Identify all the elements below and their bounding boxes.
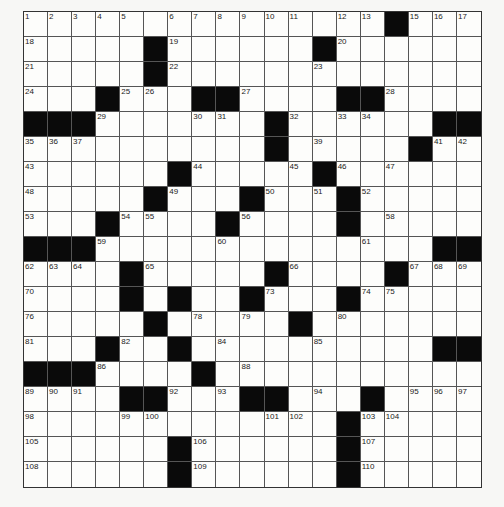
grid-cell[interactable] (289, 237, 313, 262)
grid-cell[interactable] (337, 362, 361, 387)
grid-cell[interactable] (433, 362, 457, 387)
grid-cell[interactable] (96, 187, 120, 212)
grid-cell[interactable]: 81 (24, 337, 48, 362)
grid-cell[interactable]: 89 (24, 387, 48, 412)
grid-cell[interactable]: 106 (192, 437, 216, 462)
grid-cell[interactable] (192, 412, 216, 437)
grid-cell[interactable] (289, 387, 313, 412)
grid-cell[interactable] (409, 337, 433, 362)
grid-cell[interactable]: 56 (240, 212, 264, 237)
grid-cell[interactable] (385, 387, 409, 412)
grid-cell[interactable] (337, 137, 361, 162)
grid-cell[interactable] (313, 262, 337, 287)
grid-cell[interactable] (96, 387, 120, 412)
grid-cell[interactable] (96, 262, 120, 287)
grid-cell[interactable] (313, 312, 337, 337)
grid-cell[interactable]: 10 (265, 12, 289, 37)
grid-cell[interactable] (361, 137, 385, 162)
grid-cell[interactable] (433, 187, 457, 212)
grid-cell[interactable]: 26 (144, 87, 168, 112)
grid-cell[interactable] (240, 412, 264, 437)
grid-cell[interactable]: 6 (168, 12, 192, 37)
grid-cell[interactable] (433, 462, 457, 487)
grid-cell[interactable] (409, 62, 433, 87)
grid-cell[interactable] (265, 237, 289, 262)
grid-cell[interactable] (192, 337, 216, 362)
grid-cell[interactable] (289, 37, 313, 62)
grid-cell[interactable]: 73 (265, 287, 289, 312)
grid-cell[interactable]: 69 (457, 262, 481, 287)
grid-cell[interactable] (409, 87, 433, 112)
grid-cell[interactable] (337, 387, 361, 412)
grid-cell[interactable] (48, 212, 72, 237)
grid-cell[interactable] (240, 437, 264, 462)
grid-cell[interactable]: 99 (120, 412, 144, 437)
grid-cell[interactable]: 16 (433, 12, 457, 37)
grid-cell[interactable]: 90 (48, 387, 72, 412)
grid-cell[interactable]: 19 (168, 37, 192, 62)
grid-cell[interactable] (265, 362, 289, 387)
grid-cell[interactable] (96, 437, 120, 462)
grid-cell[interactable]: 74 (361, 287, 385, 312)
grid-cell[interactable] (313, 412, 337, 437)
grid-cell[interactable]: 94 (313, 387, 337, 412)
grid-cell[interactable] (289, 337, 313, 362)
grid-cell[interactable] (385, 237, 409, 262)
grid-cell[interactable]: 48 (24, 187, 48, 212)
grid-cell[interactable] (48, 287, 72, 312)
grid-cell[interactable] (120, 137, 144, 162)
grid-cell[interactable]: 12 (337, 12, 361, 37)
grid-cell[interactable]: 45 (289, 162, 313, 187)
grid-cell[interactable] (409, 437, 433, 462)
grid-cell[interactable]: 39 (313, 137, 337, 162)
grid-cell[interactable] (240, 337, 264, 362)
grid-cell[interactable] (144, 462, 168, 487)
grid-cell[interactable] (457, 412, 481, 437)
grid-cell[interactable] (313, 287, 337, 312)
grid-cell[interactable] (361, 337, 385, 362)
grid-cell[interactable] (120, 37, 144, 62)
grid-cell[interactable] (120, 112, 144, 137)
grid-cell[interactable]: 13 (361, 12, 385, 37)
grid-cell[interactable] (96, 62, 120, 87)
grid-cell[interactable] (289, 362, 313, 387)
grid-cell[interactable] (361, 162, 385, 187)
grid-cell[interactable] (313, 462, 337, 487)
grid-cell[interactable]: 1 (24, 12, 48, 37)
grid-cell[interactable] (168, 262, 192, 287)
grid-cell[interactable] (168, 112, 192, 137)
grid-cell[interactable]: 25 (120, 87, 144, 112)
grid-cell[interactable] (409, 162, 433, 187)
grid-cell[interactable] (457, 287, 481, 312)
grid-cell[interactable] (120, 362, 144, 387)
grid-cell[interactable] (216, 287, 240, 312)
grid-cell[interactable]: 32 (289, 112, 313, 137)
grid-cell[interactable] (313, 362, 337, 387)
grid-cell[interactable] (192, 287, 216, 312)
grid-cell[interactable] (240, 162, 264, 187)
grid-cell[interactable]: 30 (192, 112, 216, 137)
grid-cell[interactable] (337, 262, 361, 287)
grid-cell[interactable] (216, 262, 240, 287)
grid-cell[interactable] (144, 362, 168, 387)
grid-cell[interactable] (313, 437, 337, 462)
grid-cell[interactable] (72, 87, 96, 112)
grid-cell[interactable] (192, 237, 216, 262)
grid-cell[interactable] (313, 12, 337, 37)
grid-cell[interactable] (265, 337, 289, 362)
grid-cell[interactable] (289, 287, 313, 312)
grid-cell[interactable]: 5 (120, 12, 144, 37)
grid-cell[interactable] (289, 187, 313, 212)
grid-cell[interactable]: 92 (168, 387, 192, 412)
grid-cell[interactable] (385, 312, 409, 337)
grid-cell[interactable] (409, 37, 433, 62)
grid-cell[interactable] (385, 462, 409, 487)
grid-cell[interactable] (337, 337, 361, 362)
grid-cell[interactable] (192, 62, 216, 87)
grid-cell[interactable] (409, 412, 433, 437)
grid-cell[interactable] (192, 137, 216, 162)
grid-cell[interactable] (192, 212, 216, 237)
grid-cell[interactable]: 67 (409, 262, 433, 287)
grid-cell[interactable] (240, 112, 264, 137)
grid-cell[interactable] (168, 212, 192, 237)
